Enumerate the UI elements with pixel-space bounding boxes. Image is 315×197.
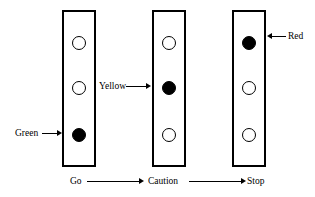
signal-2-lamp-middle [162,81,176,95]
traffic-signal-housing-3 [232,10,266,167]
sequence-step-caution: Caution [148,176,178,187]
sequence-step-go: Go [70,176,82,187]
callout-leader-line-yellow [126,86,146,87]
arrow-right-icon-sequence-2 [241,178,246,184]
callout-label-green: Green [15,128,38,139]
sequence-connector-line-2 [189,181,241,182]
signal-3-lamp-middle [242,81,256,95]
signal-1-lamp-bottom [72,128,86,142]
arrow-right-icon-yellow [146,83,151,89]
callout-label-red: Red [288,31,303,42]
arrow-right-icon-sequence-1 [139,178,144,184]
signal-2-lamp-bottom [162,128,176,142]
signal-2-lamp-top [162,36,176,50]
signal-3-lamp-bottom [242,128,256,142]
signal-3-lamp-top [242,36,256,50]
callout-label-yellow: Yellow [99,81,126,92]
sequence-connector-line-1 [87,181,139,182]
sequence-step-stop: Stop [247,176,264,187]
traffic-signal-housing-2 [152,10,186,167]
traffic-light-sequence-figure: Green Yellow Red Go Caution Stop [0,0,315,197]
callout-leader-line-green [42,133,57,134]
traffic-signal-housing-1 [62,10,96,167]
arrow-left-icon-red [267,33,272,39]
callout-leader-line-red [272,36,286,37]
signal-1-lamp-top [72,36,86,50]
arrow-right-icon-green [57,130,62,136]
signal-1-lamp-middle [72,81,86,95]
